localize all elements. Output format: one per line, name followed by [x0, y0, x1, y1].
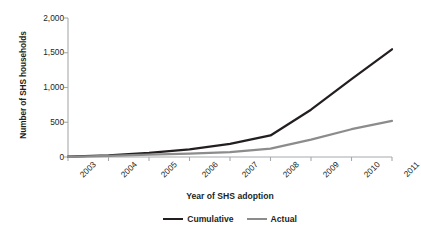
x-axis-tick-labels: 200320042005200620072008200920102011	[0, 158, 409, 190]
x-tick-label: 2006	[200, 160, 219, 179]
y-tick-label: 500	[24, 118, 64, 127]
x-tick-label: 2011	[402, 160, 421, 179]
plot-svg	[68, 18, 392, 157]
legend-label: Actual	[271, 214, 297, 224]
x-tick-label: 2003	[78, 160, 97, 179]
y-axis-tick-labels: 05001,0001,5002,000	[22, 0, 64, 235]
x-tick-label: 2009	[321, 160, 340, 179]
line-swatch-gray-icon	[247, 218, 267, 220]
x-tick-label: 2005	[159, 160, 178, 179]
y-tick-label: 2,000	[24, 14, 64, 23]
y-tick-label: 1,500	[24, 48, 64, 57]
legend-item: Actual	[247, 214, 297, 224]
x-axis-title: Year of SHS adoption	[68, 191, 392, 201]
series-line-actual	[68, 121, 392, 157]
x-tick-label: 2008	[281, 160, 300, 179]
legend-label: Cumulative	[187, 214, 233, 224]
plot-area	[68, 18, 392, 157]
x-tick-label: 2007	[240, 160, 259, 179]
series-line-cumulative	[68, 49, 392, 156]
x-tick-label: 2004	[119, 160, 138, 179]
line-swatch-dark-icon	[163, 218, 183, 220]
chart-legend: CumulativeActual	[68, 211, 392, 227]
legend-item: Cumulative	[163, 214, 233, 224]
x-tick-label: 2010	[362, 160, 381, 179]
y-tick-label: 1,000	[24, 83, 64, 92]
